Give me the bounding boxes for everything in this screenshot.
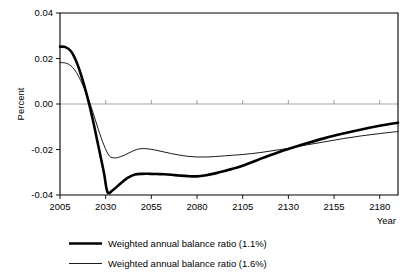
chart-legend: Weighted annual balance ratio (1.1%) Wei… — [69, 238, 267, 269]
x-axis-ticks: 20052030205520802105213021552180 — [49, 195, 390, 212]
x-tick-label: 2055 — [141, 201, 162, 212]
chart-figure: 0.040.020.00-0.02-0.04 20052030205520802… — [0, 0, 416, 278]
y-tick-label: -0.02 — [31, 144, 53, 155]
y-axis-ticks: 0.040.020.00-0.02-0.04 — [31, 7, 60, 200]
x-axis-title: Year — [377, 215, 396, 226]
x-tick-label: 2180 — [369, 201, 390, 212]
x-tick-label: 2105 — [232, 201, 253, 212]
legend-label-1: Weighted annual balance ratio (1.1%) — [108, 238, 267, 249]
legend-label-2: Weighted annual balance ratio (1.6%) — [108, 258, 267, 269]
y-tick-label: 0.00 — [35, 98, 54, 109]
chart-canvas: 0.040.020.00-0.02-0.04 20052030205520802… — [0, 0, 416, 278]
x-tick-label: 2030 — [95, 201, 116, 212]
y-tick-label: 0.02 — [35, 53, 54, 64]
y-axis-title: Percent — [15, 87, 26, 120]
x-tick-label: 2005 — [49, 201, 70, 212]
x-tick-label: 2155 — [323, 201, 344, 212]
x-tick-label: 2080 — [186, 201, 207, 212]
y-tick-label: -0.04 — [31, 189, 53, 200]
y-tick-label: 0.04 — [35, 7, 54, 18]
x-tick-label: 2130 — [278, 201, 299, 212]
